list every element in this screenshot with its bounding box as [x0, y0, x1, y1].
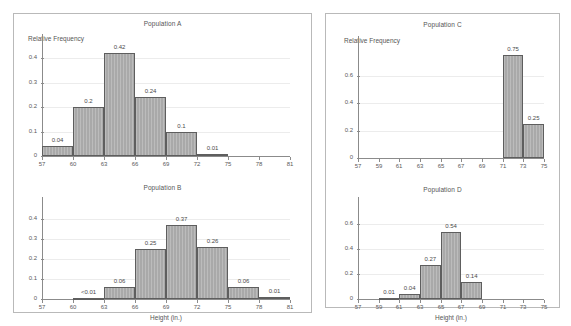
y-tick-label-population-b-1: 0.1 [8, 275, 37, 281]
x-tick-label-population-d-4: 65 [431, 304, 451, 310]
bar-population-d-2 [420, 265, 441, 299]
x-tick-label-population-d-9: 75 [534, 304, 554, 310]
x-tick-population-d-3 [420, 300, 421, 303]
y-tick-label-population-d-2: 0.4 [324, 245, 353, 251]
bar-label-population-b-6: 0.01 [259, 288, 291, 294]
x-tick-label-population-b-6: 75 [218, 304, 238, 310]
left-panel: Population ARelative Frequency00.10.20.3… [13, 13, 312, 313]
y-tick-label-population-b-2: 0.2 [8, 255, 37, 261]
bar-population-d-4 [461, 282, 482, 300]
x-tick-label-population-d-8: 73 [513, 304, 533, 310]
bar-label-population-d-3: 0.54 [435, 223, 467, 229]
chart-population-b: Population B00.10.20.30.4576063666972757… [14, 14, 311, 312]
y-tick-label-population-d-0: 0 [324, 295, 353, 301]
x-tick-label-population-b-2: 63 [94, 304, 114, 310]
x-tick-population-d-6 [482, 300, 483, 303]
bar-population-d-3 [441, 232, 462, 300]
y-tick-population-b-4 [41, 219, 44, 220]
x-tick-population-d-2 [399, 300, 400, 303]
x-tick-population-b-6 [228, 300, 229, 303]
x-tick-population-b-7 [259, 300, 260, 303]
chart-title-population-d: Population D [326, 186, 559, 193]
x-tick-population-d-5 [461, 300, 462, 303]
x-tick-label-population-d-7: 71 [493, 304, 513, 310]
y-axis-population-b [42, 197, 43, 299]
x-tick-population-d-7 [503, 300, 504, 303]
x-tick-population-b-1 [73, 300, 74, 303]
x-tick-population-b-5 [197, 300, 198, 303]
bar-population-d-1 [399, 294, 420, 299]
bar-population-b-3 [166, 225, 197, 299]
bar-population-b-5 [228, 287, 259, 299]
x-tick-population-b-4 [166, 300, 167, 303]
bar-population-b-0 [73, 298, 104, 300]
bar-population-b-2 [135, 249, 166, 299]
bar-label-population-b-1: 0.06 [104, 278, 136, 284]
chart-title-population-b: Population B [14, 184, 311, 191]
x-tick-label-population-b-5: 72 [187, 304, 207, 310]
x-tick-population-b-3 [135, 300, 136, 303]
x-tick-label-population-b-4: 69 [156, 304, 176, 310]
bar-label-population-b-0: <0.01 [73, 289, 105, 295]
x-tick-label-population-d-3: 63 [410, 304, 430, 310]
y-tick-label-population-b-0: 0 [8, 295, 37, 301]
x-tick-population-d-1 [379, 300, 380, 303]
x-tick-population-d-8 [523, 300, 524, 303]
x-tick-population-d-4 [441, 300, 442, 303]
bar-label-population-b-4: 0.26 [197, 238, 229, 244]
bar-label-population-d-4: 0.14 [456, 273, 488, 279]
y-axis-population-d [358, 197, 359, 299]
bar-population-b-4 [197, 247, 228, 299]
y-tick-label-population-b-4: 0.4 [8, 215, 37, 221]
x-tick-label-population-d-0: 57 [348, 304, 368, 310]
x-tick-label-population-d-5: 67 [451, 304, 471, 310]
y-tick-population-b-2 [41, 259, 44, 260]
bar-label-population-b-2: 0.25 [135, 240, 167, 246]
bar-label-population-b-5: 0.06 [228, 278, 260, 284]
y-tick-label-population-b-3: 0.3 [8, 235, 37, 241]
y-tick-label-population-d-1: 0.2 [324, 270, 353, 276]
y-tick-population-d-3 [357, 224, 360, 225]
bar-population-b-6 [259, 297, 290, 299]
x-axis-label-population-b: Height (in.) [126, 314, 206, 321]
figure-root: Population ARelative Frequency00.10.20.3… [0, 0, 571, 326]
x-tick-population-b-0 [42, 300, 43, 303]
y-tick-label-population-d-3: 0.6 [324, 220, 353, 226]
x-tick-population-b-2 [104, 300, 105, 303]
x-tick-label-population-d-2: 61 [389, 304, 409, 310]
right-panel: Population CRelative Frequency00.20.40.6… [325, 13, 560, 308]
y-tick-population-b-1 [41, 279, 44, 280]
x-axis-label-population-d: Height (in.) [411, 314, 491, 321]
x-tick-population-d-9 [544, 300, 545, 303]
bar-population-d-0 [379, 298, 400, 300]
y-tick-population-d-1 [357, 274, 360, 275]
x-tick-label-population-b-8: 81 [280, 304, 300, 310]
x-tick-population-b-8 [290, 300, 291, 303]
x-tick-label-population-b-3: 66 [125, 304, 145, 310]
bar-population-b-1 [104, 287, 135, 299]
x-tick-population-d-0 [358, 300, 359, 303]
y-tick-population-d-2 [357, 249, 360, 250]
x-tick-label-population-b-1: 60 [63, 304, 83, 310]
bar-label-population-b-3: 0.37 [166, 216, 198, 222]
x-tick-label-population-d-6: 69 [472, 304, 492, 310]
x-tick-label-population-d-1: 59 [369, 304, 389, 310]
x-tick-label-population-b-7: 78 [249, 304, 269, 310]
y-tick-population-b-3 [41, 239, 44, 240]
x-tick-label-population-b-0: 57 [32, 304, 52, 310]
chart-population-d: Population D00.20.40.6575961636567697173… [326, 14, 559, 307]
